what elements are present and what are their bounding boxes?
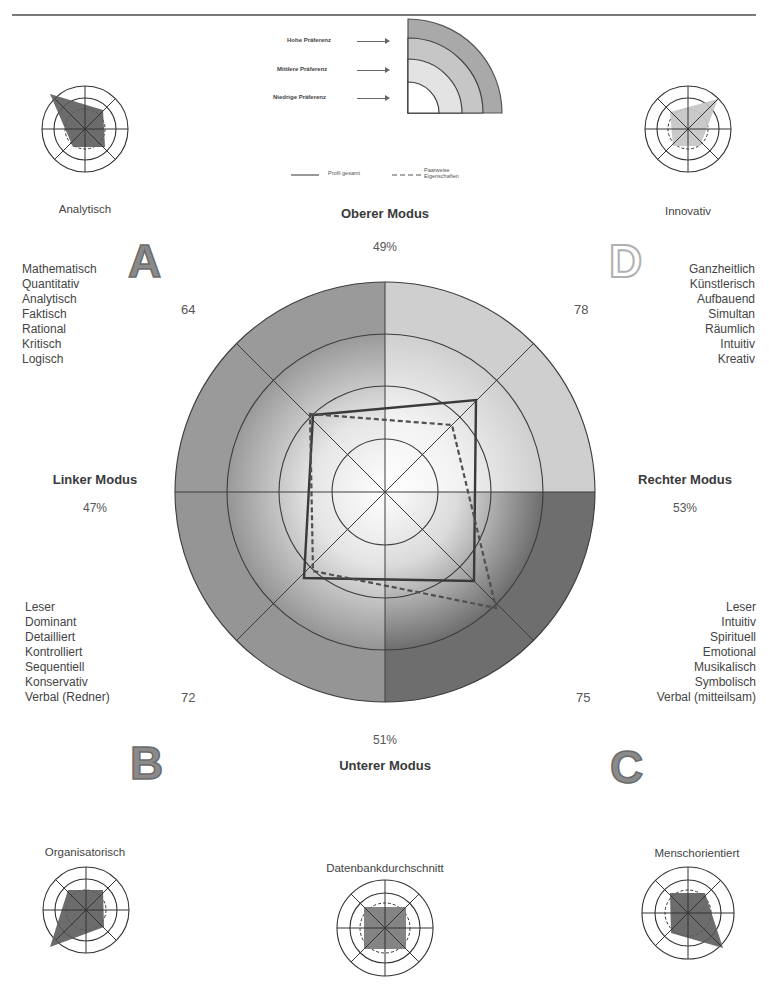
- trait-item: Kritisch: [22, 337, 97, 352]
- top-divider: [12, 14, 756, 16]
- trait-item: Künstlerisch: [640, 277, 755, 292]
- quadrant-b-letter: B: [130, 740, 163, 786]
- trait-item: Leser: [25, 600, 110, 615]
- innovativ-mini-chart: [643, 84, 733, 174]
- trait-item: Verbal (mitteilsam): [600, 690, 756, 705]
- organisatorisch-mini-chart: [41, 865, 131, 955]
- legend-medium-label: Mittlere Präferenz: [277, 66, 327, 72]
- trait-item: Emotional: [600, 645, 756, 660]
- trait-item: Spirituell: [600, 630, 756, 645]
- quarter-circle-legend-icon: [407, 18, 517, 118]
- menschorientiert-mini-chart: [643, 865, 743, 965]
- left-mode-percent: 47%: [45, 501, 145, 515]
- trait-item: Aufbauend: [640, 292, 755, 307]
- trait-item: Analytisch: [22, 292, 97, 307]
- arrow-icon: [357, 70, 387, 71]
- quadrant-d-letter: D: [609, 238, 642, 284]
- trait-item: Intuitiv: [640, 337, 755, 352]
- trait-item: Leser: [600, 600, 756, 615]
- right-mode-percent: 53%: [635, 501, 735, 515]
- trait-item: Simultan: [640, 307, 755, 322]
- trait-item: Symbolisch: [600, 675, 756, 690]
- analytisch-label: Analytisch: [35, 203, 135, 215]
- datenbank-mini-chart: [335, 878, 435, 978]
- trait-item: Mathematisch: [22, 262, 97, 277]
- quadrant-c-traits: Leser Intuitiv Spirituell Emotional Musi…: [600, 600, 756, 705]
- top-mode-title: Oberer Modus: [285, 206, 485, 221]
- trait-item: Faktisch: [22, 307, 97, 322]
- quadrant-b-traits: Leser Dominant Detailliert Kontrolliert …: [25, 600, 110, 705]
- solid-line-icon: [291, 173, 321, 177]
- analytisch-mini-chart: [40, 84, 130, 174]
- menschorientiert-label: Menschorientiert: [632, 847, 762, 859]
- main-profile-chart: [165, 272, 605, 712]
- top-mode-percent: 49%: [335, 240, 435, 254]
- arrow-icon: [357, 41, 387, 42]
- dashed-line-icon: [392, 173, 424, 177]
- dashed-line-label-2: Eigenschaften: [424, 173, 459, 179]
- trait-item: Räumlich: [640, 322, 755, 337]
- trait-item: Kontrolliert: [25, 645, 110, 660]
- innovativ-label: Innovativ: [638, 205, 738, 217]
- solid-line-label: Profil gesamt: [328, 170, 360, 176]
- bottom-mode-title: Unterer Modus: [285, 758, 485, 773]
- quadrant-a-traits: Mathematisch Quantitativ Analytisch Fakt…: [22, 262, 97, 367]
- bottom-mode-percent: 51%: [335, 733, 435, 747]
- organisatorisch-label: Organisatorisch: [20, 846, 150, 858]
- datenbank-label: Datenbankdurchschnitt: [295, 862, 475, 874]
- right-mode-title: Rechter Modus: [610, 472, 760, 487]
- trait-item: Detailliert: [25, 630, 110, 645]
- dashed-line-label: Paarweise Eigenschaften: [424, 167, 459, 179]
- trait-item: Konservativ: [25, 675, 110, 690]
- trait-item: Intuitiv: [600, 615, 756, 630]
- trait-item: Logisch: [22, 352, 97, 367]
- trait-item: Kreativ: [640, 352, 755, 367]
- trait-item: Quantitativ: [22, 277, 97, 292]
- trait-item: Dominant: [25, 615, 110, 630]
- trait-item: Ganzheitlich: [640, 262, 755, 277]
- quadrant-c-letter: C: [610, 744, 643, 790]
- left-mode-title: Linker Modus: [20, 472, 170, 487]
- arrow-icon: [357, 98, 387, 99]
- trait-item: Verbal (Redner): [25, 690, 110, 705]
- trait-item: Sequentiell: [25, 660, 110, 675]
- quadrant-d-traits: Ganzheitlich Künstlerisch Aufbauend Simu…: [640, 262, 755, 367]
- trait-item: Musikalisch: [600, 660, 756, 675]
- trait-item: Rational: [22, 322, 97, 337]
- legend-high-label: Hohe Präferenz: [287, 37, 331, 43]
- legend-low-label: Niedrige Präferenz: [273, 94, 326, 100]
- quadrant-a-letter: A: [128, 238, 161, 284]
